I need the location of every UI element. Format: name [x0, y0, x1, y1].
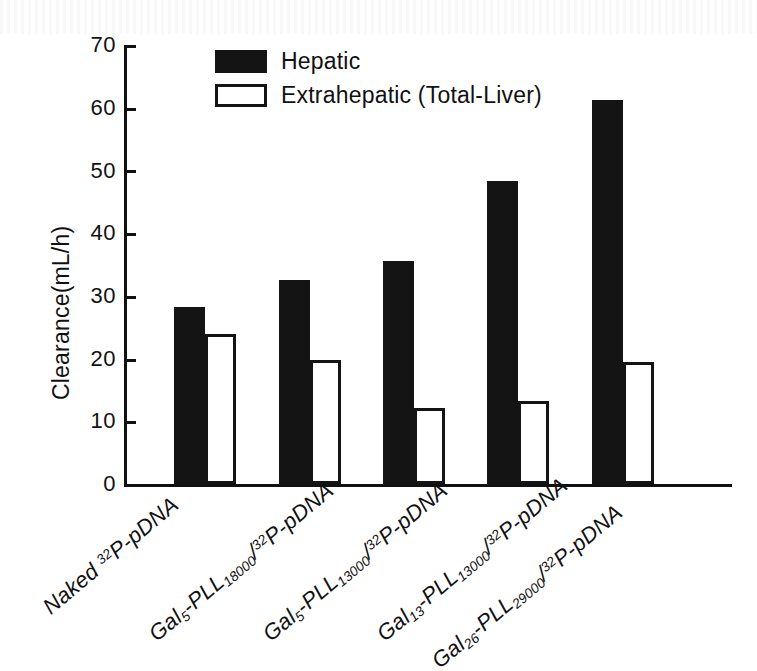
x-tick-label: Naked 32P-pDNA — [38, 492, 184, 620]
x-tick-label: Gal5-PLL13000/32P-pDNA — [258, 478, 453, 648]
